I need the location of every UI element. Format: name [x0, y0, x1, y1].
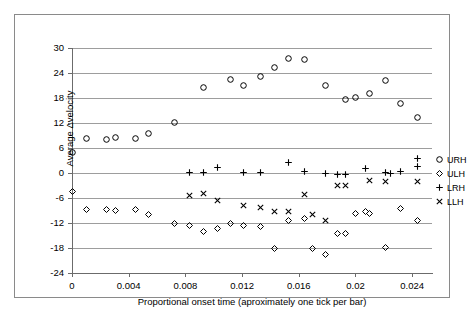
x-tick-label: 0.008 — [155, 281, 215, 291]
y-tick-mark — [68, 48, 72, 49]
circle-icon — [434, 154, 446, 166]
gridline — [72, 98, 432, 99]
x-tick-mark — [355, 273, 356, 277]
plot-area — [72, 48, 432, 273]
chart-legend: URHULHLRHLLH — [434, 153, 471, 209]
gridline — [72, 173, 432, 174]
y-tick-label: 0 — [15, 168, 64, 178]
legend-label: ULH — [447, 169, 465, 179]
x-tick-mark — [299, 273, 300, 277]
plus-icon — [434, 182, 446, 194]
x-axis-title: Proportional onset time (aproximately on… — [72, 296, 432, 307]
gridline — [72, 123, 432, 124]
legend-item-ulh[interactable]: ULH — [434, 167, 471, 181]
y-tick-mark — [68, 123, 72, 124]
x-tick-label: 0.016 — [269, 281, 329, 291]
x-tick-label: 0.024 — [382, 281, 442, 291]
x-tick-label: 0.02 — [325, 281, 385, 291]
x-tick-mark — [129, 273, 130, 277]
gridline — [72, 73, 432, 74]
diamond-icon — [434, 168, 446, 180]
y-tick-mark — [68, 73, 72, 74]
legend-item-urh[interactable]: URH — [434, 153, 471, 167]
y-tick-label: 30 — [15, 43, 64, 53]
gridline — [72, 198, 432, 199]
legend-item-llh[interactable]: LLH — [434, 195, 471, 209]
y-tick-label: 6 — [15, 143, 64, 153]
x-tick-mark — [72, 273, 73, 277]
y-tick-label: 12 — [15, 118, 64, 128]
x-tick-mark — [242, 273, 243, 277]
y-tick-label: -18 — [15, 243, 64, 253]
y-tick-mark — [68, 198, 72, 199]
y-axis-title: Average Δvelocity — [64, 69, 75, 189]
gridline — [72, 48, 432, 49]
legend-label: LRH — [447, 183, 465, 193]
y-tick-label: 24 — [15, 68, 64, 78]
gridline — [72, 223, 432, 224]
x-tick-label: 0 — [42, 281, 102, 291]
legend-label: URH — [447, 155, 467, 165]
y-tick-label: -24 — [15, 268, 64, 278]
y-tick-mark — [68, 148, 72, 149]
chart-frame: Average Δvelocity Proportional onset tim… — [14, 14, 450, 298]
y-tick-label: 18 — [15, 93, 64, 103]
y-tick-mark — [68, 223, 72, 224]
cross-icon — [434, 196, 446, 208]
x-tick-mark — [185, 273, 186, 277]
gridline — [72, 248, 432, 249]
x-tick-label: 0.012 — [212, 281, 272, 291]
y-tick-mark — [68, 248, 72, 249]
legend-label: LLH — [447, 197, 464, 207]
y-tick-label: -6 — [15, 193, 64, 203]
y-tick-mark — [68, 173, 72, 174]
x-tick-mark — [412, 273, 413, 277]
y-tick-label: -12 — [15, 218, 64, 228]
gridline — [72, 148, 432, 149]
x-axis-line — [72, 273, 433, 274]
x-tick-label: 0.004 — [99, 281, 159, 291]
y-tick-mark — [68, 98, 72, 99]
legend-item-lrh[interactable]: LRH — [434, 181, 471, 195]
